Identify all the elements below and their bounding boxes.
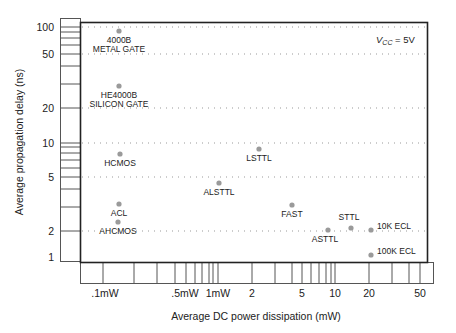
x-scale-strip [81,262,434,284]
x-tick-50: 50 [414,287,426,299]
point-fast [289,202,294,207]
point-lsttl [256,146,261,151]
label-alsttl: ALSTTL [203,187,234,197]
x-tick-5: 5 [299,287,305,299]
point-labels: 4000B METAL GATE HE4000B SILICON GATE HC… [90,35,416,256]
label-100k-ecl: 100K ECL [377,246,416,256]
chart: 100 50 20 10 5 2 1 .1mW .5mW 1mW 2 5 10 … [0,0,456,333]
x-tick-0.5mW: .5mW [171,287,199,299]
x-tick-2: 2 [249,287,255,299]
y-tick-20: 20 [42,102,54,114]
point-asttl [325,227,330,232]
label-fast: FAST [281,209,302,219]
y-tick-10: 10 [42,137,54,149]
y-tick-labels: 100 50 20 10 5 2 1 [36,21,54,263]
x-tick-0.1mW: .1mW [91,287,119,299]
point-sttl [348,225,353,230]
point-4000b [116,28,121,33]
point-10k-ecl [368,227,373,232]
x-tick-20: 20 [363,287,375,299]
label-asttl: ASTTL [312,234,339,244]
point-alsttl [216,180,221,185]
y-scale-strip [60,19,81,262]
vcc-annotation: VCC = 5V [376,34,416,46]
x-tick-labels: .1mW .5mW 1mW 2 5 10 20 50 [91,287,426,299]
label-10k-ecl: 10K ECL [377,221,411,231]
y-tick-50: 50 [42,48,54,60]
point-hcmos [117,151,122,156]
y-axis-title: Average propagation delay (ns) [13,69,25,215]
y-tick-1: 1 [48,251,54,263]
x-axis-title: Average DC power dissipation (mW) [171,310,341,322]
x-tick-10: 10 [329,287,341,299]
point-acl [116,201,121,206]
label-sttl: STTL [339,212,360,222]
grid-lines [82,27,427,231]
label-acl: ACL [111,208,128,218]
label-hcmos: HCMOS [104,158,136,168]
x-tick-1mW: 1mW [206,287,231,299]
y-tick-2: 2 [48,225,54,237]
label-lsttl: LSTTL [246,153,272,163]
point-100k-ecl [368,252,373,257]
point-he4000b [116,83,121,88]
y-tick-5: 5 [48,171,54,183]
label-he4000b-l2: SILICON GATE [90,99,149,109]
y-tick-100: 100 [36,21,54,33]
point-ahcmos [115,219,120,224]
label-ahcmos: AHCMOS [99,226,137,236]
label-4000b-l2: METAL GATE [93,44,146,54]
